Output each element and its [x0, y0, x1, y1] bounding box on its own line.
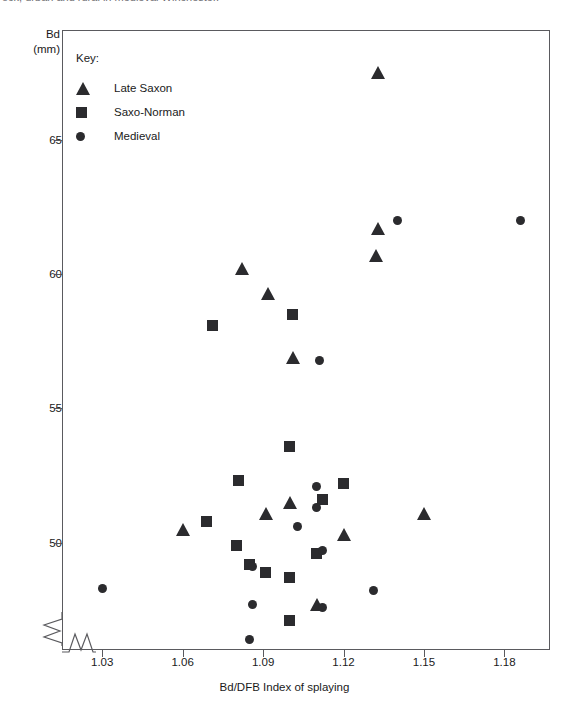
y-axis-title-unit: (mm) — [8, 42, 60, 57]
legend-item-late-saxon: Late Saxon — [76, 76, 185, 100]
x-tick-mark-1.12 — [344, 650, 345, 657]
x-axis-break-icon — [62, 628, 96, 654]
legend-swatch-shape — [76, 82, 90, 95]
legend-item-saxo-norman: Saxo-Norman — [76, 100, 185, 124]
legend-square-icon — [76, 107, 106, 118]
x-tick-label-1.09: 1.09 — [233, 656, 293, 668]
scatter-plot-figure: Bd (mm) 65605550 1.031.061.091.121.151.1… — [0, 0, 569, 708]
x-tick-label-1.15: 1.15 — [394, 656, 454, 668]
legend-item-medieval: Medieval — [76, 124, 185, 148]
legend-label-late-saxon: Late Saxon — [114, 82, 172, 94]
y-axis-break-icon — [38, 612, 64, 646]
legend-circle-icon — [76, 132, 106, 141]
y-tick-mark-50 — [55, 543, 62, 544]
y-axis-title-name: Bd — [8, 27, 60, 42]
x-tick-mark-1.15 — [424, 650, 425, 657]
x-tick-mark-1.03 — [102, 650, 103, 657]
legend-label-medieval: Medieval — [114, 130, 160, 142]
x-tick-label-1.18: 1.18 — [474, 656, 534, 668]
x-tick-label-1.03: 1.03 — [72, 656, 132, 668]
x-tick-mark-1.18 — [504, 650, 505, 657]
y-axis-title: Bd (mm) — [8, 27, 60, 57]
legend-triangle-icon — [76, 82, 106, 95]
y-tick-mark-55 — [55, 408, 62, 409]
y-tick-mark-60 — [55, 274, 62, 275]
x-tick-label-1.06: 1.06 — [153, 656, 213, 668]
legend-label-saxo-norman: Saxo-Norman — [114, 106, 185, 118]
x-tick-label-1.12: 1.12 — [314, 656, 374, 668]
legend-swatch-shape — [76, 107, 87, 118]
legend-title: Key: — [76, 52, 185, 64]
x-axis-title: Bd/DFB Index of splaying — [0, 681, 569, 693]
legend: Key: Late SaxonSaxo-NormanMedieval — [76, 52, 185, 148]
x-tick-mark-1.06 — [183, 650, 184, 657]
legend-swatch-shape — [76, 132, 85, 141]
legend-rows: Late SaxonSaxo-NormanMedieval — [76, 76, 185, 148]
x-tick-mark-1.09 — [263, 650, 264, 657]
y-tick-mark-65 — [55, 140, 62, 141]
